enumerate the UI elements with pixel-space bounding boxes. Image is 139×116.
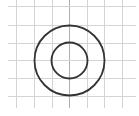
concentric-circles-diagram	[0, 0, 139, 116]
grid	[8, 0, 136, 108]
diagram-canvas	[0, 0, 139, 116]
